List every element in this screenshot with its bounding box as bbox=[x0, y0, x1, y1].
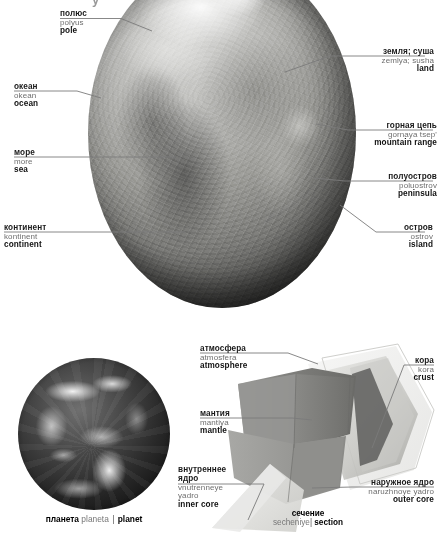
label-ocean-en: ocean bbox=[14, 100, 38, 109]
planet-sphere bbox=[18, 358, 170, 510]
label-land: земля; суша zemlya; susha land bbox=[382, 48, 434, 74]
label-outer-core-en: outer core bbox=[368, 496, 434, 505]
label-mountain-range: горная цепь gornaya tsep' mountain range bbox=[374, 122, 437, 148]
planet-caption: планета planeta | planet bbox=[18, 514, 170, 524]
label-crust-en: crust bbox=[413, 374, 434, 383]
label-atmosphere: атмосфера atmosfera atmosphere bbox=[200, 345, 247, 371]
label-crust: кора kora crust bbox=[413, 357, 434, 383]
earth-globe-relief bbox=[88, 0, 356, 308]
label-mantle: мантия mantiya mantle bbox=[200, 410, 230, 436]
label-atmosphere-en: atmosphere bbox=[200, 362, 247, 371]
section-caption-ru: сечение bbox=[243, 509, 373, 518]
label-continent-en: continent bbox=[4, 241, 46, 250]
section-caption-translit: secheniye bbox=[273, 518, 310, 527]
label-peninsula-en: peninsula bbox=[388, 190, 437, 199]
label-sea: море more sea bbox=[14, 149, 35, 175]
section-caption-separator: | bbox=[310, 518, 312, 527]
label-land-en: land bbox=[382, 65, 434, 74]
planet-caption-separator: | bbox=[111, 514, 115, 524]
planet-photo bbox=[18, 358, 170, 510]
label-mantle-en: mantle bbox=[200, 427, 230, 436]
planet-caption-ru: планета bbox=[46, 514, 79, 524]
label-pole-en: pole bbox=[60, 27, 87, 36]
label-ocean: океан okean ocean bbox=[14, 83, 38, 109]
label-continent: континент kontinent continent bbox=[4, 224, 46, 250]
label-pole: полюс polyus pole bbox=[60, 10, 87, 36]
planet-caption-translit: planeta bbox=[81, 514, 108, 524]
diagram-page: у планета planeta | planet bbox=[0, 0, 439, 533]
label-inner-core: внутреннее ядро vnutrenneye yadro inner … bbox=[178, 466, 226, 510]
label-inner-core-en: inner core bbox=[178, 501, 226, 510]
label-island-en: island bbox=[404, 241, 433, 250]
label-sea-en: sea bbox=[14, 166, 35, 175]
section-caption-en: section bbox=[314, 518, 343, 527]
label-island: остров ostrov island bbox=[404, 224, 433, 250]
section-caption: сечение secheniye| section bbox=[243, 509, 373, 527]
label-mountain-range-en: mountain range bbox=[374, 139, 437, 148]
planet-terminator-shadow bbox=[18, 358, 170, 510]
label-outer-core: наружное ядро naruzhnoye yadro outer cor… bbox=[368, 479, 434, 505]
label-peninsula: полуостров poluostrov peninsula bbox=[388, 173, 437, 199]
planet-caption-en: planet bbox=[118, 514, 143, 524]
globe-sphere bbox=[88, 0, 356, 308]
